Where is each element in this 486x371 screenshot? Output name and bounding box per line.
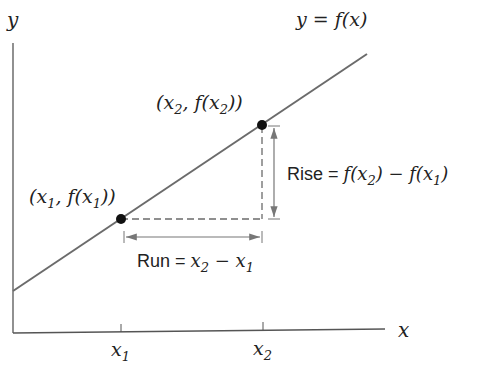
x-axis	[13, 329, 385, 333]
y-axis-label: y	[6, 8, 19, 32]
point-2	[257, 120, 267, 130]
curve-label: y = f(x)	[295, 8, 367, 30]
slope-diagram: y x y = f(x) (x2, f(x2)) (x1, f(x1)) Ris…	[0, 0, 486, 371]
point-1	[116, 214, 126, 224]
x-axis-label: x	[398, 318, 409, 342]
run-label: Run = x2 − x1	[137, 250, 254, 275]
x1-tick-label: x1	[111, 338, 130, 364]
x2-tick-label: x2	[253, 337, 272, 363]
rise-label: Rise = f(x2) − f(x1)	[287, 163, 448, 188]
point-2-label: (x2, f(x2))	[156, 91, 243, 117]
point-1-label: (x1, f(x1))	[29, 185, 116, 211]
